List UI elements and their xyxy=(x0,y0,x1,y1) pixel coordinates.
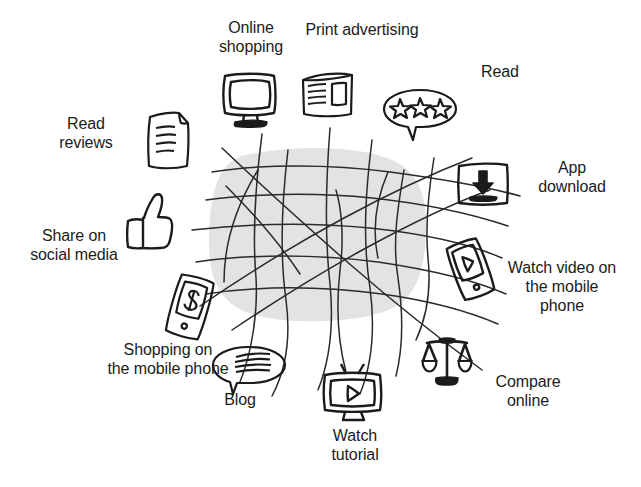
desktop-monitor-icon xyxy=(219,70,281,128)
label-share-on-social-media: Share on social media xyxy=(18,226,130,264)
star-rating-bubble-icon xyxy=(380,86,460,146)
label-shopping-on-the-mobile-phone: Shopping on the mobile phone xyxy=(100,340,236,378)
label-compare-online: Compare online xyxy=(478,372,578,410)
label-app-download: App download xyxy=(520,158,624,196)
label-watch-video-on-the-mobile-phone: Watch video on the mobile phone xyxy=(498,258,626,315)
label-watch-tutorial: Watch tutorial xyxy=(315,426,395,464)
tv-play-icon xyxy=(320,362,386,424)
mobile-video-icon xyxy=(447,238,495,300)
label-read: Read xyxy=(455,62,545,81)
diagram-canvas: Online shopping Print advertising Read A… xyxy=(0,0,641,487)
thumbs-up-icon xyxy=(122,190,176,252)
balance-scales-icon xyxy=(420,334,474,390)
mobile-dollar-icon xyxy=(165,274,215,342)
label-print-advertising: Print advertising xyxy=(292,20,432,39)
label-read-reviews: Read reviews xyxy=(38,114,134,152)
document-lines-icon xyxy=(145,110,193,172)
newspaper-icon xyxy=(299,70,357,122)
label-blog: Blog xyxy=(200,390,280,409)
label-online-shopping: Online shopping xyxy=(196,18,306,56)
download-box-icon xyxy=(455,160,511,208)
center-blob xyxy=(209,148,426,321)
